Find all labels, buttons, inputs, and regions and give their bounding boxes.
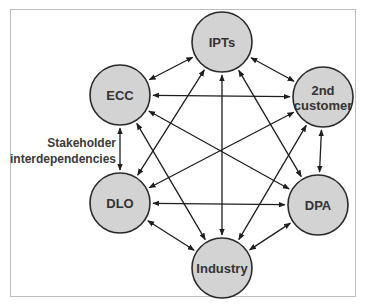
edge-dlo-dpa [153, 203, 285, 204]
node-ecc: ECC [90, 65, 150, 125]
node-label: Industry [196, 261, 248, 276]
side-label-line1: Stakeholder [10, 135, 116, 151]
edge-ipts-second [251, 58, 294, 81]
edge-ipts-dpa [239, 70, 302, 176]
node-dpa: DPA [288, 175, 348, 235]
stakeholder-interdependencies-label: Stakeholder interdependencies [10, 135, 116, 167]
edge-ecc-industry [137, 123, 205, 239]
node-label: 2nd [311, 83, 334, 98]
edge-second-dpa [320, 130, 322, 172]
edge-ipts-ecc [149, 57, 192, 80]
node-dlo: DLO [90, 173, 150, 233]
node-label: customer [294, 98, 353, 113]
side-label-line2: interdependencies [10, 151, 116, 167]
edges-group [120, 57, 321, 250]
edge-dlo-industry [148, 221, 194, 251]
node-second: 2ndcustomer [293, 67, 353, 127]
edge-dpa-industry [250, 223, 291, 250]
edge-ecc-second [153, 95, 290, 96]
node-ipts: IPTs [192, 12, 252, 72]
node-label: DPA [305, 198, 332, 213]
node-label: ECC [106, 88, 134, 103]
node-label: IPTs [209, 35, 236, 50]
node-label: DLO [106, 196, 133, 211]
node-industry: Industry [192, 238, 252, 298]
